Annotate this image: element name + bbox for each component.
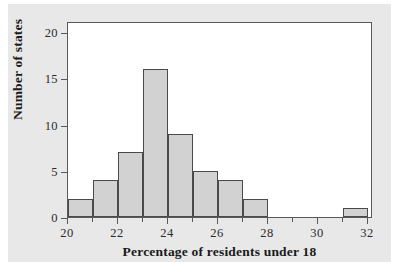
x-tick-mark xyxy=(367,218,368,224)
y-tick-label: 15 xyxy=(45,72,58,87)
x-tick-mark-minor xyxy=(242,218,243,222)
histogram-bar xyxy=(218,180,243,217)
x-tick-mark xyxy=(317,218,318,224)
y-tick-label: 5 xyxy=(51,164,58,179)
x-axis: 20222426283032 xyxy=(67,218,372,230)
x-axis-title: Percentage of residents under 18 xyxy=(67,244,372,260)
histogram-bar xyxy=(243,199,268,217)
histogram-bar xyxy=(93,180,118,217)
x-tick-mark xyxy=(167,218,168,224)
y-tick-label: 0 xyxy=(51,211,58,226)
x-tick-mark xyxy=(67,218,68,224)
x-tick-mark xyxy=(117,218,118,224)
y-axis: 05101520 xyxy=(0,0,67,275)
x-tick-mark-minor xyxy=(192,218,193,222)
x-tick-label: 20 xyxy=(60,226,73,241)
histogram-bar xyxy=(168,134,193,217)
x-tick-mark xyxy=(267,218,268,224)
histogram-figure: Number of states 05101520 20222426283032… xyxy=(0,0,399,275)
x-tick-mark-minor xyxy=(142,218,143,222)
x-tick-mark-minor xyxy=(292,218,293,222)
histogram-bar xyxy=(143,69,168,217)
plot-area xyxy=(68,23,371,217)
x-tick-label: 22 xyxy=(110,226,123,241)
histogram-bar xyxy=(68,199,93,217)
x-tick-label: 28 xyxy=(260,226,273,241)
x-tick-mark xyxy=(217,218,218,224)
x-tick-mark-minor xyxy=(92,218,93,222)
histogram-bar xyxy=(343,208,368,217)
y-tick-label: 10 xyxy=(45,118,58,133)
x-tick-label: 26 xyxy=(210,226,223,241)
x-tick-mark-minor xyxy=(342,218,343,222)
x-tick-label: 24 xyxy=(160,226,173,241)
plot-frame xyxy=(67,22,372,218)
histogram-bar xyxy=(193,171,218,217)
histogram-bar xyxy=(118,152,143,217)
y-tick-label: 20 xyxy=(45,26,58,41)
x-tick-label: 32 xyxy=(360,226,373,241)
x-tick-label: 30 xyxy=(310,226,323,241)
